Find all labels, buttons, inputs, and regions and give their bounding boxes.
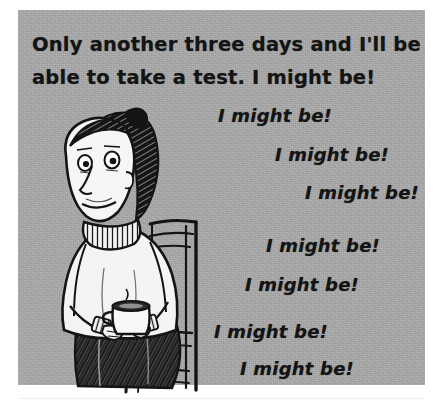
head — [65, 108, 158, 221]
cartoon-panel-image: Only another three days and I'll be able… — [0, 0, 440, 414]
bottom-divider — [20, 398, 424, 399]
figure-line-art — [0, 0, 440, 414]
ribbed-turtleneck-collar — [83, 220, 140, 250]
face — [65, 118, 134, 221]
